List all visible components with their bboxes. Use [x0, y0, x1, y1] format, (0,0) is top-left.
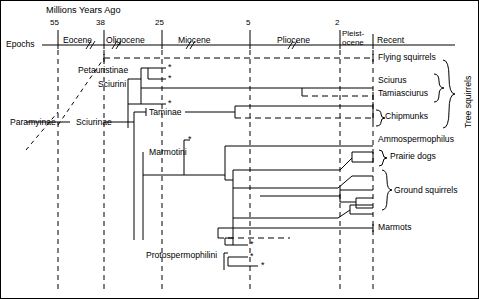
- taxon-marmotini: Marmotini: [149, 148, 187, 157]
- epoch-miocene: Miocene: [178, 36, 210, 45]
- taxon-ground-squirrels: Ground squirrels: [394, 186, 458, 195]
- group-label-tree-squirrels: Tree squirrels: [464, 76, 473, 128]
- epoch-eocene: Eocene: [63, 36, 92, 45]
- taxon-ammospermophilus: Ammospermophilus: [378, 135, 454, 144]
- taxon-sciurus: Sciurus: [378, 76, 407, 85]
- row-label-epochs: Epochs: [6, 40, 35, 49]
- tick-label-5: 5: [246, 19, 250, 27]
- taxon-tamiasciurus: Tamiasciurus: [378, 89, 428, 98]
- taxon-marmots: Marmots: [378, 223, 411, 232]
- epoch-pleistocene-line1: Pleist-: [342, 30, 364, 38]
- figure-root: Millions Years Ago Epochs 55 38 25 5 2 E…: [0, 0, 479, 299]
- tick-label-55: 55: [50, 19, 59, 27]
- extinct-marker: *: [250, 252, 254, 261]
- extinct-marker: *: [250, 240, 254, 249]
- taxon-sciurini: Sciurini: [98, 80, 126, 89]
- taxon-petauristinae: Petauristinae: [78, 66, 128, 75]
- taxon-flying-squirrels: Flying squirrels: [378, 53, 436, 62]
- extinct-marker: *: [261, 261, 265, 270]
- epoch-oligocene: Oligocene: [106, 36, 145, 45]
- epoch-pleistocene-line2: ocene: [342, 39, 364, 47]
- taxon-prairie-dogs: Prairie dogs: [390, 152, 436, 161]
- epoch-pliocene: Pliocene: [277, 36, 310, 45]
- extinct-marker: *: [168, 63, 172, 72]
- extinct-marker: *: [188, 135, 192, 144]
- taxon-chipmunks: Chipmunks: [385, 112, 428, 121]
- extinct-marker: *: [168, 74, 172, 83]
- taxon-taminae: Taminae: [149, 108, 181, 117]
- tick-label-2: 2: [335, 19, 339, 27]
- extinct-marker: *: [168, 99, 172, 108]
- taxon-paramyinae: Paramyinae: [10, 118, 56, 127]
- epoch-recent: Recent: [377, 36, 404, 45]
- tick-label-25: 25: [155, 19, 164, 27]
- tick-label-38: 38: [96, 19, 105, 27]
- axis-title: Millions Years Ago: [46, 6, 121, 15]
- taxon-sciurinae: Sciurinae: [76, 118, 112, 127]
- taxon-protospermophilini: Protospermophilini: [146, 251, 217, 260]
